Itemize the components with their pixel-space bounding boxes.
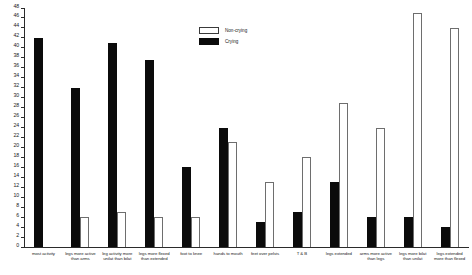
legend-swatch-non-crying <box>199 27 219 34</box>
y-tick-mark <box>21 137 24 138</box>
y-tick-label: 6 <box>16 213 19 218</box>
x-axis-label: most activity <box>25 251 62 275</box>
y-tick-mark <box>21 157 24 158</box>
bar-crying <box>182 167 191 247</box>
y-tick-label: 14 <box>13 173 19 178</box>
bar-non-crying <box>117 212 126 247</box>
y-tick-mark <box>21 247 24 248</box>
y-tick-label: 42 <box>13 33 19 38</box>
y-tick-mark <box>21 27 24 28</box>
bar-group <box>136 8 173 247</box>
x-axis-label: legs more bilat than unilat <box>394 251 431 275</box>
y-tick-mark <box>21 177 24 178</box>
y-tick-mark <box>21 97 24 98</box>
y-tick-mark <box>21 167 24 168</box>
y-tick-mark <box>21 107 24 108</box>
y-tick-mark <box>21 127 24 128</box>
y-tick-mark <box>21 17 24 18</box>
y-tick-label: 18 <box>13 153 19 158</box>
x-axis-labels: most activitylegs more active than armsl… <box>25 251 468 275</box>
y-tick-label: 26 <box>13 113 19 118</box>
y-tick-mark <box>21 217 24 218</box>
y-tick-mark <box>21 227 24 228</box>
bar-chart: 0246810121416182022242628303234363840424… <box>0 0 472 275</box>
bar-crying <box>34 38 43 247</box>
y-tick-label: 24 <box>13 123 19 128</box>
x-axis-label: arms more active than legs <box>357 251 394 275</box>
x-axis-label: foot to knee <box>173 251 210 275</box>
bar-group <box>431 8 468 247</box>
bar-group <box>62 8 99 247</box>
y-tick-label: 38 <box>13 53 19 58</box>
legend-label-crying: Crying <box>225 39 238 44</box>
y-tick-mark <box>21 47 24 48</box>
bar-crying <box>441 227 450 247</box>
bar-non-crying <box>80 217 89 247</box>
chart-legend: Non-crying Crying <box>199 27 247 45</box>
y-tick-mark <box>21 57 24 58</box>
bar-crying <box>219 128 228 248</box>
bar-crying <box>404 217 413 247</box>
y-tick-mark <box>21 67 24 68</box>
x-axis-line <box>24 247 469 248</box>
x-axis-label: legs extended more than flexed <box>431 251 468 275</box>
y-tick-mark <box>21 197 24 198</box>
legend-item-crying: Crying <box>199 38 247 45</box>
y-tick-label: 8 <box>16 203 19 208</box>
x-axis-label: legs more flexed than extended <box>136 251 173 275</box>
y-tick-mark <box>21 117 24 118</box>
bar-non-crying <box>265 182 274 247</box>
y-tick-label: 16 <box>13 163 19 168</box>
x-axis-label: feet over pelvis <box>247 251 284 275</box>
y-tick-label: 30 <box>13 93 19 98</box>
y-tick-mark <box>21 8 24 9</box>
legend-label-non-crying: Non-crying <box>225 28 247 33</box>
y-tick-mark <box>21 77 24 78</box>
bar-crying <box>256 222 265 247</box>
bar-crying <box>108 43 117 247</box>
y-tick-mark <box>21 187 24 188</box>
bar-group <box>394 8 431 247</box>
y-tick-label: 40 <box>13 43 19 48</box>
bar-group <box>283 8 320 247</box>
y-tick-label: 28 <box>13 103 19 108</box>
y-tick-label: 46 <box>13 13 19 18</box>
x-axis-label: leg activity more unilat than bilat <box>99 251 136 275</box>
bar-non-crying <box>450 28 459 247</box>
y-tick-mark <box>21 37 24 38</box>
bar-non-crying <box>413 13 422 247</box>
x-axis-label: hands to mouth <box>210 251 247 275</box>
y-tick-label: 20 <box>13 143 19 148</box>
bar-non-crying <box>154 217 163 247</box>
y-tick-mark <box>21 207 24 208</box>
y-tick-mark <box>21 147 24 148</box>
bar-crying <box>71 88 80 247</box>
bar-group <box>357 8 394 247</box>
y-tick-label: 32 <box>13 83 19 88</box>
bar-crying <box>367 217 376 247</box>
bar-non-crying <box>43 245 52 247</box>
legend-item-non-crying: Non-crying <box>199 27 247 34</box>
y-tick-label: 22 <box>13 133 19 138</box>
bar-group <box>25 8 62 247</box>
y-tick-label: 2 <box>16 233 19 238</box>
y-tick-label: 0 <box>16 243 19 248</box>
bar-crying <box>145 60 154 247</box>
legend-swatch-crying <box>199 38 219 45</box>
bar-non-crying <box>302 157 311 247</box>
x-axis-label: legs more active than arms <box>62 251 99 275</box>
y-tick-mark <box>21 87 24 88</box>
y-tick-label: 10 <box>13 193 19 198</box>
y-tick-label: 12 <box>13 183 19 188</box>
bar-crying <box>330 182 339 247</box>
bar-group <box>320 8 357 247</box>
x-axis-label: legs extended <box>320 251 357 275</box>
y-tick-label: 36 <box>13 63 19 68</box>
y-tick-label: 44 <box>13 23 19 28</box>
y-tick-label: 48 <box>13 4 19 9</box>
bar-group <box>99 8 136 247</box>
bar-non-crying <box>228 142 237 247</box>
bar-group <box>247 8 284 247</box>
bar-non-crying <box>339 103 348 247</box>
x-axis-label: T & B <box>283 251 320 275</box>
